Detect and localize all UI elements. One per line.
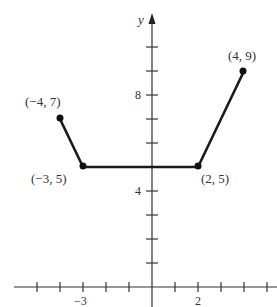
point-neg4-7: [57, 115, 64, 122]
y-axis-arrow-icon: [149, 13, 156, 24]
y-axis-label: y: [136, 12, 144, 27]
x-tick-label-2: 2: [195, 294, 201, 307]
point-label-2-5: (2, 5): [201, 171, 229, 186]
point-neg3-5: [80, 163, 87, 170]
point-label-neg4-7: (−4, 7): [25, 94, 61, 109]
y-tick-label-8: 8: [135, 88, 141, 102]
piecewise-graph: y −3 2 8 4 (−4, 7) (−3, 5) (2, 5) (4,: [0, 0, 277, 307]
point-4-9: [240, 68, 247, 75]
point-2-5: [195, 163, 202, 170]
point-label-4-9: (4, 9): [228, 48, 256, 63]
x-tick-label-neg3: −3: [74, 294, 87, 307]
point-label-neg3-5: (−3, 5): [31, 171, 67, 186]
y-tick-label-4: 4: [135, 184, 141, 198]
